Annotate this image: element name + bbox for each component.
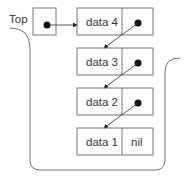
stack-container-bottom: [40, 160, 165, 170]
stack-container-right: [165, 58, 180, 160]
node-data-label: data 4: [86, 16, 119, 28]
node-data-label: data 2: [86, 96, 118, 108]
nil-label: nil: [131, 136, 143, 148]
top-label: Top: [9, 13, 28, 25]
node-data-2: data 2: [77, 88, 153, 128]
node-data-1: data 1 nil: [77, 128, 153, 155]
stack-container-left: [10, 28, 40, 170]
node-data-4: data 4: [77, 8, 153, 48]
node-data-3: data 3: [77, 48, 153, 88]
stack-diagram: Top data 4 data 3 data 2 data 1 nil: [0, 0, 191, 176]
top-pointer-box: [33, 8, 56, 35]
node-data-label: data 1: [86, 136, 118, 148]
node-data-label: data 3: [86, 56, 118, 68]
